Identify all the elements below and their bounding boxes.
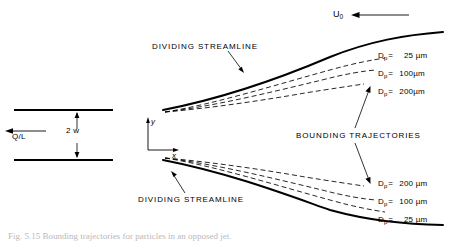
figure-root: Q/L 2 w U0 y x DIVIDING STREAMLINE DIVID… (0, 0, 451, 242)
particle-value: 25 (394, 52, 413, 60)
particle-subscript: p (384, 55, 387, 61)
freestream-velocity-label: U0 (333, 10, 343, 21)
leader-arrowhead-bounding-bottom (365, 177, 370, 184)
particle-label-top-100um: Dp=100µm (378, 70, 425, 79)
particle-value: 100 (394, 198, 413, 206)
particle-value: 200 (394, 88, 413, 96)
particle-value: 25 (394, 216, 413, 224)
leader-dividing-streamline-bottom (173, 174, 185, 193)
particle-subscript: p (384, 91, 387, 97)
trajectory-top-200um (165, 84, 364, 112)
freestream-velocity-subscript: 0 (340, 13, 344, 20)
dividing-streamline-label-bottom: DIVIDING STREAMLINE (138, 196, 244, 204)
leader-bounding-trajectories-top (355, 90, 369, 128)
particle-label-top-200um: Dp=200µm (378, 88, 425, 97)
channel-width-label: 2 w (66, 127, 79, 135)
trajectory-top-25um (165, 58, 385, 112)
particle-unit: µm (416, 215, 428, 224)
particle-label-top-25um: Dp=25 µm (378, 52, 427, 61)
particle-subscript: p (384, 201, 387, 207)
particle-equals: = (388, 215, 393, 224)
leader-arrowhead-dividing-streamline-bottom (171, 171, 177, 177)
particle-label-bottom-25um: Dp=25 µm (378, 216, 427, 225)
particle-value: 100 (394, 70, 413, 78)
particle-unit: µm (413, 69, 425, 78)
leader-bounding-trajectories-bottom (355, 143, 369, 180)
particle-label-bottom-200um: Dp=200 µm (378, 180, 427, 189)
particle-equals: = (388, 51, 393, 60)
particle-unit: µm (416, 179, 428, 188)
particle-equals: = (388, 197, 393, 206)
inlet-flow-label: Q/L (12, 133, 26, 141)
particle-subscript: p (384, 73, 387, 79)
leader-arrowhead-bounding-top (365, 86, 370, 93)
particle-label-bottom-100um: Dp=100 µm (378, 198, 427, 207)
particle-equals: = (388, 179, 393, 188)
width-dimension-arrowhead-down (75, 152, 80, 158)
particle-unit: µm (416, 51, 428, 60)
figure-caption: Fig. 5.15 Bounding trajectories for part… (8, 231, 231, 242)
axis-y-label: y (151, 118, 155, 126)
axis-x-label: x (172, 152, 176, 160)
trajectory-bottom-200um (165, 158, 364, 186)
leader-arrowhead-dividing-streamline-top (238, 67, 244, 73)
axis-y-arrowhead (146, 117, 150, 123)
particle-unit: µm (413, 87, 425, 96)
particle-value: 200 (394, 180, 413, 188)
width-dimension-arrowhead-up (75, 112, 80, 118)
particle-unit: µm (416, 197, 428, 206)
leader-dividing-streamline-top (228, 51, 242, 70)
freestream-arrowhead (351, 12, 360, 18)
particle-subscript: p (384, 219, 387, 225)
dividing-streamline-label-top: DIVIDING STREAMLINE (152, 43, 258, 51)
bounding-trajectories-label: BOUNDING TRAJECTORIES (296, 132, 421, 140)
particle-subscript: p (384, 183, 387, 189)
particle-equals: = (388, 87, 393, 96)
particle-equals: = (388, 69, 393, 78)
